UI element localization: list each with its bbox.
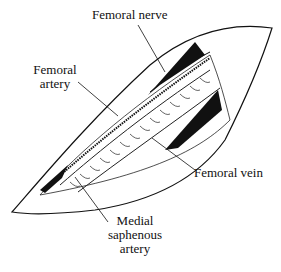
label-femoral-nerve: Femoral nerve xyxy=(92,8,167,22)
leader-femoral-artery xyxy=(78,82,118,116)
label-femoral-vein: Femoral vein xyxy=(194,166,263,180)
label-medial-saphenous-line1: Medial xyxy=(100,214,170,228)
label-medial-saphenous-line2: saphenous xyxy=(100,228,170,242)
cut-off-caption xyxy=(0,265,281,272)
label-femoral-artery-line1: Femoral xyxy=(30,63,80,77)
label-femoral-artery-line2: artery xyxy=(30,77,80,91)
label-medial-saphenous-line3: artery xyxy=(100,242,170,256)
label-medial-saphenous-artery: Medial saphenous artery xyxy=(100,214,170,256)
label-femoral-artery: Femoral artery xyxy=(30,63,80,91)
